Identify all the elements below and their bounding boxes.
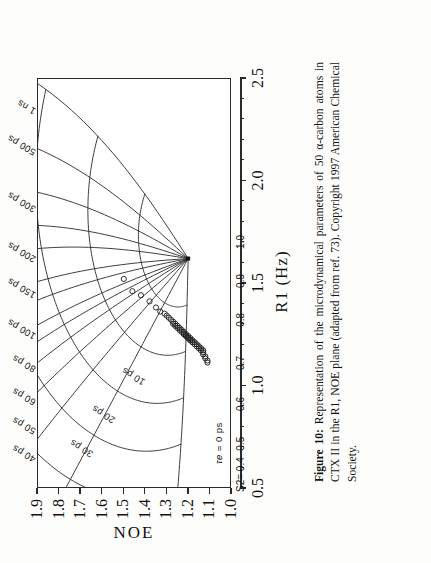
x-tick-label: 0.5 <box>249 478 267 498</box>
tau-edge-label: 300 ps <box>5 190 37 215</box>
mesh-curve <box>38 79 173 487</box>
data-point <box>138 293 143 298</box>
s2-tick-label: 1.0 <box>235 235 246 249</box>
tau-edge-label: 150 ps <box>5 276 37 301</box>
x-tick-minor <box>240 139 244 140</box>
y-tick-label: 1.0 <box>222 499 240 519</box>
tau-edge-label: 500 ps <box>5 133 37 158</box>
tau-edge-label: 60 ps <box>10 386 37 408</box>
mesh-curve <box>38 259 188 341</box>
tau-edge-label: 1 ns <box>15 98 37 117</box>
y-tick-label: 1.3 <box>157 499 175 519</box>
y-tick-label: 1.9 <box>28 499 46 519</box>
data-point <box>121 276 126 281</box>
s2-tick-label: 0.9 <box>235 274 246 288</box>
x-tick-minor <box>240 262 244 263</box>
x-tick-label: 2.5 <box>249 68 267 88</box>
y-tick <box>187 488 188 494</box>
plot-frame <box>37 78 231 488</box>
y-tick <box>101 488 102 494</box>
y-tick-label: 1.5 <box>114 499 132 519</box>
x-axis-title: R1 (Hz) <box>272 0 292 563</box>
tau-edge-label: 50 ps <box>10 415 37 437</box>
parameter-mesh <box>38 79 231 487</box>
y-axis-title: NOE <box>37 523 231 545</box>
data-point <box>130 289 135 294</box>
x-tick-minor <box>240 303 244 304</box>
y-tick <box>209 488 210 494</box>
x-tick-minor <box>240 160 244 161</box>
y-tick-label: 1.4 <box>136 499 154 519</box>
mesh-curve <box>173 259 188 487</box>
s2-tick-label: 0.7 <box>235 356 246 370</box>
x-tick-minor <box>240 344 244 345</box>
data-point <box>153 305 158 310</box>
s2-tick-label: 0.6 <box>235 397 246 411</box>
figure-rotated-container: 30 ps20 ps10 psτe =0 ps 0.51.01.52.02.5 … <box>0 0 300 563</box>
x-tick-label: 1.5 <box>249 273 267 293</box>
y-tick-label: 1.6 <box>93 499 111 519</box>
x-tick-minor <box>240 385 244 386</box>
s2-tick-label: S2= 0.4 <box>235 457 246 492</box>
mesh-curve <box>38 89 184 403</box>
x-tick-minor <box>240 119 244 120</box>
x-tick <box>240 77 246 78</box>
mesh-curve <box>38 247 188 293</box>
mesh-curve <box>38 259 188 487</box>
y-tick <box>79 488 80 494</box>
y-tick-label: 1.8 <box>50 499 68 519</box>
s2-tick-label: 0.5 <box>235 437 246 451</box>
x-tick-minor <box>240 98 244 99</box>
y-tick <box>144 488 145 494</box>
mesh-vertex <box>186 257 190 261</box>
y-tick-label: 1.2 <box>179 499 197 519</box>
plot-area: 30 ps20 ps10 psτe =0 ps <box>37 78 231 488</box>
tau-zero-label: 0 ps <box>213 422 224 442</box>
mesh-curve <box>38 79 178 487</box>
mesh-curve <box>38 79 188 259</box>
caption-label: Figure 10: <box>313 429 326 482</box>
x-tick-minor <box>240 201 244 202</box>
y-tick <box>123 488 124 494</box>
mesh-curve <box>47 259 188 487</box>
tau-edge-label: 200 ps <box>5 240 37 265</box>
tau-edge-label: 40 ps <box>10 443 37 465</box>
y-tick <box>230 488 231 494</box>
x-tick-label: 2.0 <box>249 171 267 191</box>
s2-tick-label: 0.8 <box>235 313 246 327</box>
x-tick-label: 1.0 <box>249 376 267 396</box>
y-tick-label: 1.1 <box>200 499 218 519</box>
y-tick-label: 1.7 <box>71 499 89 519</box>
x-tick <box>240 180 246 181</box>
tau-e-equals-label: τe = <box>213 445 224 464</box>
x-tick-minor <box>240 221 244 222</box>
y-tick <box>58 488 59 494</box>
mesh-curve <box>38 225 188 258</box>
tau-edge-label: 100 ps <box>5 317 37 342</box>
y-tick <box>166 488 167 494</box>
y-tick <box>36 488 37 494</box>
mesh-curve <box>38 128 188 259</box>
x-tick-minor <box>240 426 244 427</box>
mesh-curve <box>38 259 188 413</box>
mesh-curve <box>38 79 181 451</box>
figure-caption: Figure 10: Representation of the micrody… <box>312 62 424 482</box>
tau-edge-label: 80 ps <box>10 353 37 375</box>
